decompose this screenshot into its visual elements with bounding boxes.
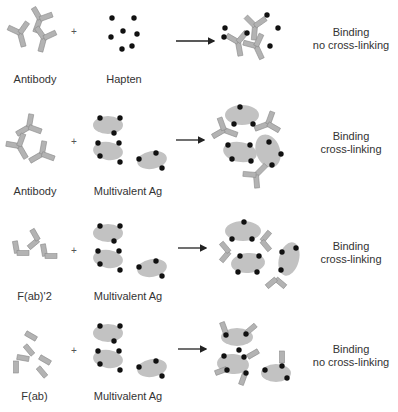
row-1-reactant-2-label: Hapten (99, 73, 149, 85)
row-3-reactant-1-label: F(ab)'2 (12, 290, 57, 302)
row-4-product (215, 322, 291, 386)
row-1-result-line-2: no cross-linking (306, 39, 396, 52)
row-2-antibodies (4, 112, 57, 171)
row-2-reactant-2-label: Multivalent Ag (88, 185, 168, 197)
row-1-reactant-1-label: Antibody (10, 73, 60, 85)
row-3-result-line-1: Binding (306, 240, 396, 253)
row-3-fab2 (7, 228, 59, 265)
row-1-product (221, 12, 280, 63)
row-2-result-line-2: cross-linking (306, 143, 396, 156)
row-3-multivalent-ag (92, 223, 168, 279)
row-2-result-line-1: Binding (306, 130, 396, 143)
row-4-result-line-2: no cross-linking (306, 356, 396, 369)
row-2-multivalent-ag (92, 115, 168, 171)
row-4-fab (14, 331, 52, 378)
row-4-result: Binding no cross-linking (306, 343, 396, 369)
row-4-multivalent-ag (92, 323, 168, 379)
row-1-haptens (108, 15, 139, 51)
row-2-product (210, 104, 285, 190)
row-4-reactant-2-label: Multivalent Ag (88, 390, 168, 402)
row-1-antibodies (6, 5, 58, 54)
row-3-result-line-2: cross-linking (306, 253, 396, 266)
row-3-plus-sign: + (71, 245, 77, 256)
row-4-reactant-1-label: F(ab) (12, 390, 57, 402)
row-1-result: Binding no cross-linking (306, 26, 396, 52)
row-2-plus-sign: + (71, 136, 77, 147)
row-3-reactant-2-label: Multivalent Ag (88, 290, 168, 302)
row-4-result-line-1: Binding (306, 343, 396, 356)
row-3-product (219, 219, 303, 288)
row-4-plus-sign: + (71, 345, 77, 356)
row-2-result: Binding cross-linking (306, 130, 396, 156)
row-3-result: Binding cross-linking (306, 240, 396, 266)
row-1-plus-sign: + (71, 26, 77, 37)
row-1-result-line-1: Binding (306, 26, 396, 39)
row-2-reactant-1-label: Antibody (10, 185, 60, 197)
